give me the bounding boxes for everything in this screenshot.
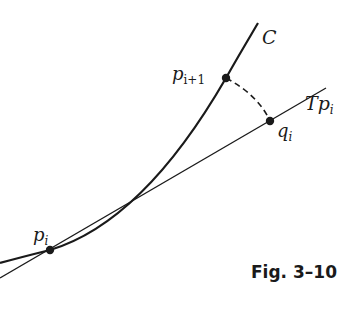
point-p-i-plus-1 — [222, 74, 230, 82]
figure-canvas: C pi+1 Tpi qi pi Fig. 3–10 — [0, 0, 357, 324]
label-p-i: pi — [33, 224, 49, 248]
point-q-i — [266, 117, 274, 125]
dashed-arc — [226, 78, 270, 121]
figure-caption: Fig. 3–10 — [251, 262, 337, 282]
label-tangent: Tpi — [305, 92, 334, 117]
label-q-i: qi — [277, 120, 293, 144]
label-curve-c: C — [262, 26, 277, 48]
label-p-i-plus-1: pi+1 — [172, 63, 205, 87]
